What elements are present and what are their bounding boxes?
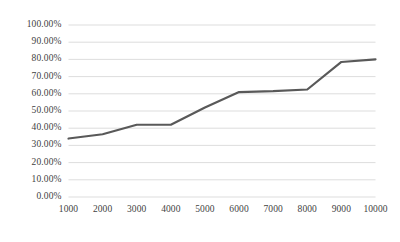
- line-chart: 0.00%10.00%20.00%30.00%40.00%50.00%60.00…: [0, 0, 400, 242]
- chart-background: [0, 0, 400, 242]
- chart-plot-area: [0, 0, 400, 242]
